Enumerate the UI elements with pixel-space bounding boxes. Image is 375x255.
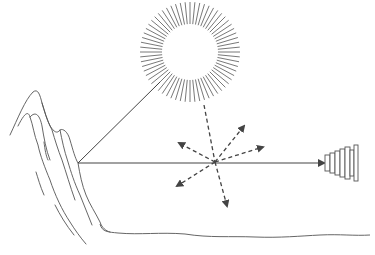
scattered-ray-up-right (215, 126, 244, 162)
incident-ray-to-particle (204, 105, 215, 162)
scattered-ray-up-left (179, 143, 215, 162)
scattered-ray-down-left (177, 162, 215, 186)
telescope-icon (325, 145, 358, 181)
scattered-ray-right (215, 147, 263, 162)
mountain-icon (10, 91, 110, 244)
scattered-rays (177, 126, 263, 206)
light-scattering-diagram (0, 0, 375, 255)
scattered-ray-down (215, 162, 227, 206)
incident-ray-to-mountain (78, 82, 160, 163)
ground-line (100, 224, 370, 237)
diagram-canvas (0, 0, 375, 255)
